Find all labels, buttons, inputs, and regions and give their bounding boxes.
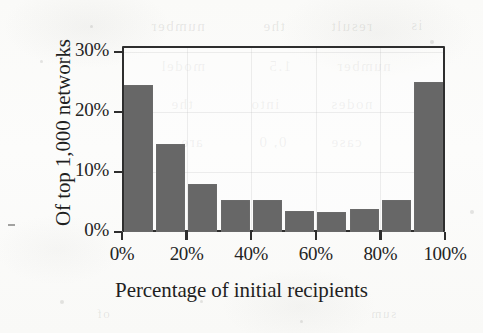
- bar: [188, 184, 217, 232]
- bleedthrough-text: is: [410, 18, 422, 34]
- x-axis-tick: [315, 232, 317, 240]
- scan-speck: [40, 60, 43, 63]
- y-axis-tick: [114, 111, 122, 113]
- y-axis-tick-label: 0%: [84, 219, 109, 241]
- y-axis-tick: [114, 51, 122, 53]
- x-axis-tick: [121, 232, 123, 240]
- y-axis-tick-label: 30%: [75, 39, 109, 61]
- scan-speck: [300, 320, 303, 323]
- y-axis-title: Of top 1,000 networks: [51, 8, 76, 258]
- bar: [414, 82, 443, 232]
- y-axis-tick: [114, 171, 122, 173]
- y-axis-tick-label: 10%: [75, 159, 109, 181]
- plot-area: [122, 46, 445, 232]
- x-axis-title: Percentage of initial recipients: [0, 278, 483, 303]
- stray-scan-mark: [8, 224, 15, 226]
- x-axis-tick: [444, 232, 446, 240]
- bleedthrough-text: number: [150, 18, 205, 35]
- scan-speck: [470, 210, 474, 214]
- bar: [317, 212, 346, 232]
- bar: [285, 211, 314, 232]
- x-axis-tick: [379, 232, 381, 240]
- bar: [253, 200, 282, 232]
- bar: [156, 144, 185, 232]
- bleedthrough-text: the: [262, 18, 285, 35]
- bar-series: [122, 46, 445, 232]
- bleedthrough-text: of: [96, 306, 110, 322]
- bar: [221, 200, 250, 232]
- bar: [350, 209, 379, 232]
- scan-speck: [90, 25, 93, 28]
- x-axis-tick: [185, 232, 187, 240]
- x-axis-tick: [250, 232, 252, 240]
- x-axis-tick-label: 100%: [405, 243, 483, 265]
- scan-speck: [430, 40, 434, 44]
- bar: [382, 200, 411, 232]
- bar: [124, 85, 153, 232]
- bleedthrough-text: sum: [370, 306, 396, 322]
- bleedthrough-text: result: [330, 18, 372, 35]
- figure-container: numbertheresultismodel1.5numbertheintono…: [0, 0, 483, 333]
- y-axis-tick-label: 20%: [75, 99, 109, 121]
